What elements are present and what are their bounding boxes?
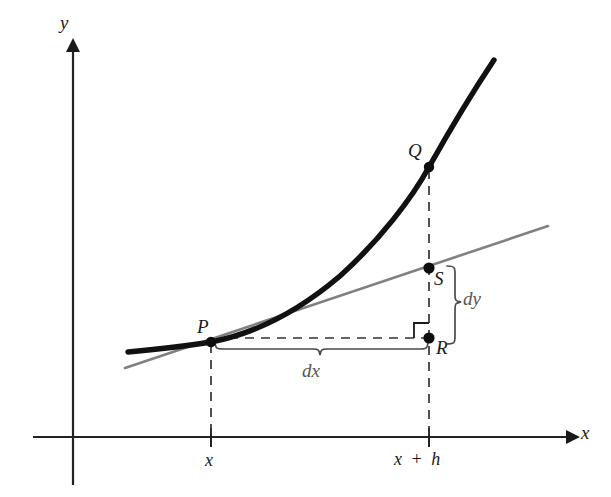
point-s (423, 262, 434, 273)
x-plus-h-tick-label: x + h (394, 449, 442, 470)
point-label-r: R (436, 337, 448, 359)
point-label-q: Q (408, 140, 422, 162)
y-axis-label: y (60, 12, 68, 34)
point-label-s: S (434, 268, 444, 290)
dx-label: dx (302, 360, 320, 382)
dx-brace (215, 340, 428, 355)
x-axis-label: x (581, 422, 589, 444)
point-r (423, 332, 434, 343)
point-label-p: P (197, 316, 209, 338)
x-axis (33, 430, 580, 444)
dy-label: dy (463, 288, 481, 310)
point-q (424, 162, 434, 172)
derivative-diagram (0, 0, 611, 497)
y-axis (66, 38, 80, 485)
dy-brace (447, 266, 461, 344)
function-curve (128, 60, 494, 352)
point-p (206, 337, 216, 347)
x-tick-label: x (205, 450, 213, 471)
